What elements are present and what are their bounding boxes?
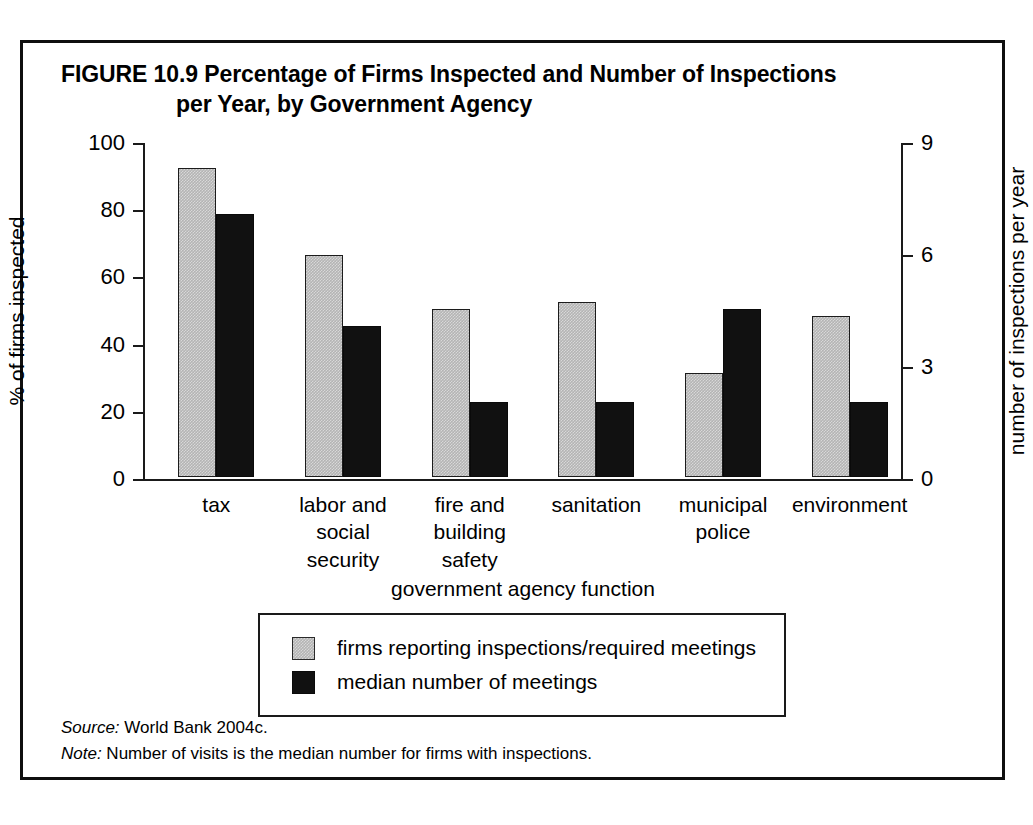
bar-series-a (178, 168, 216, 477)
legend-label-series-b: median number of meetings (337, 670, 597, 694)
figure-title-line1: Percentage of Firms Inspected and Number… (204, 61, 836, 87)
bar-group (558, 141, 634, 477)
y-axis-right-tick-label: 9 (921, 132, 933, 154)
y-axis-left-tick (133, 412, 143, 414)
x-axis-category-labels: taxlabor andsocialsecurityfire andbuildi… (143, 491, 903, 581)
y-axis-left-tick (133, 479, 143, 481)
note-line: Note: Number of visits is the median num… (61, 741, 592, 767)
category-label-line: safety (395, 546, 545, 573)
plot-area: 020406080100 0369 % of firms inspected n… (143, 143, 903, 479)
x-axis-title: government agency function (143, 577, 903, 601)
bar-series-b (850, 402, 888, 477)
x-axis-category-label: environment (775, 491, 925, 518)
bar-group (432, 141, 508, 477)
y-axis-left-tick (133, 277, 143, 279)
y-axis-left-tick-label: 60 (101, 266, 125, 288)
bar-series-a (812, 316, 850, 477)
bar-group (305, 141, 381, 477)
y-axis-left-tick-label: 20 (101, 401, 125, 423)
source-lead: Source: (61, 718, 120, 737)
bar-series-b (596, 402, 634, 477)
bar-series-b (343, 326, 381, 477)
legend-swatch-black-icon (292, 671, 315, 694)
y-axis-left-title: % of firms inspected (5, 216, 29, 405)
figure-footer: Source: World Bank 2004c. Note: Number o… (61, 715, 592, 766)
legend-item-series-b: median number of meetings (260, 665, 784, 699)
y-axis-right-line (901, 143, 903, 480)
y-axis-left-line (143, 143, 145, 480)
figure-number: FIGURE 10.9 (61, 61, 198, 87)
source-line: Source: World Bank 2004c. (61, 715, 592, 741)
bar-series-b (470, 402, 508, 477)
y-axis-right-tick-label: 0 (921, 468, 933, 490)
category-label-line: environment (775, 491, 925, 518)
category-label-line: building (395, 518, 545, 545)
bar-group (812, 141, 888, 477)
figure-title: FIGURE 10.9 Percentage of Firms Inspecte… (61, 59, 961, 120)
chart-legend: firms reporting inspections/required mee… (258, 613, 786, 717)
bar-series-a (558, 302, 596, 477)
figure-title-line2: per Year, by Government Agency (61, 89, 961, 119)
y-axis-left-tick (133, 210, 143, 212)
y-axis-right-tick-label: 3 (921, 356, 933, 378)
legend-label-series-a: firms reporting inspections/required mee… (337, 636, 756, 660)
y-axis-right-tick (903, 367, 913, 369)
bar-group (685, 141, 761, 477)
legend-swatch-gray-icon (292, 637, 315, 660)
bar-series-a (685, 373, 723, 477)
bar-series-b (723, 309, 761, 477)
source-text: World Bank 2004c. (120, 718, 268, 737)
note-lead: Note: (61, 744, 102, 763)
y-axis-right-tick (903, 479, 913, 481)
x-axis-line (143, 479, 903, 481)
bar-series-a (432, 309, 470, 477)
y-axis-left-tick-label: 100 (88, 132, 125, 154)
bar-series-a (305, 255, 343, 477)
y-axis-left-tick-label: 0 (113, 468, 125, 490)
bar-group (178, 141, 254, 477)
y-axis-right-title: number of inspections per year (1005, 167, 1029, 455)
figure-frame: FIGURE 10.9 Percentage of Firms Inspecte… (20, 40, 1005, 780)
y-axis-right-tick (903, 255, 913, 257)
y-axis-left-tick-label: 40 (101, 334, 125, 356)
y-axis-right-tick-label: 6 (921, 244, 933, 266)
y-axis-left-tick (133, 143, 143, 145)
category-label-line: police (648, 518, 798, 545)
bar-series-b (216, 214, 254, 477)
note-text: Number of visits is the median number fo… (102, 744, 592, 763)
y-axis-left-tick (133, 345, 143, 347)
y-axis-right-tick (903, 143, 913, 145)
y-axis-left-tick-label: 80 (101, 199, 125, 221)
legend-item-series-a: firms reporting inspections/required mee… (260, 631, 784, 665)
